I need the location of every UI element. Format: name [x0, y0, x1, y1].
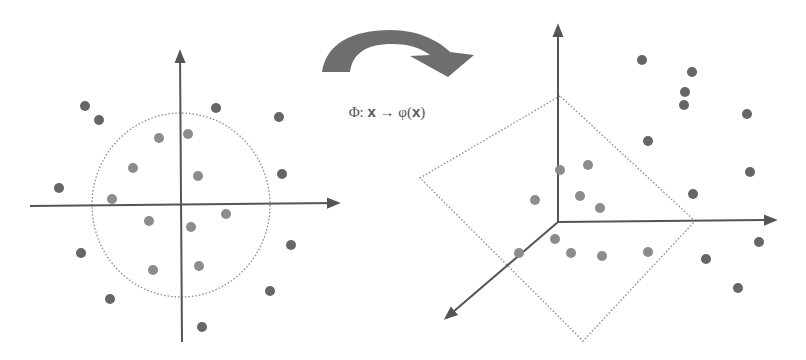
- curved-arrow-icon: [322, 30, 474, 77]
- outer-point: [688, 189, 698, 199]
- inner-point: [194, 261, 204, 271]
- inner-point: [186, 222, 196, 232]
- inner-class-points: [107, 129, 231, 275]
- outer-point: [277, 169, 287, 179]
- outer-point: [754, 237, 764, 247]
- outer-class-points-mapped: [637, 55, 764, 293]
- inner-point: [154, 133, 164, 143]
- y-axis-3d: [446, 222, 558, 318]
- outer-point: [80, 101, 90, 111]
- x-axis-3d: [558, 220, 775, 222]
- maps-to-arrow: →: [376, 104, 399, 120]
- outer-point: [286, 240, 296, 250]
- inner-point: [566, 248, 576, 258]
- inner-point: [530, 195, 540, 205]
- varphi-symbol: φ(: [398, 104, 412, 120]
- phi-symbol: Φ: [349, 104, 360, 120]
- inner-point: [107, 194, 117, 204]
- inner-point: [148, 265, 158, 275]
- mapping-formula: Φ: x → φ(x): [322, 103, 452, 121]
- input-space-plot: [30, 52, 338, 342]
- outer-point: [94, 115, 104, 125]
- outer-point: [54, 183, 64, 193]
- x-axis: [30, 203, 338, 206]
- outer-point: [687, 67, 697, 77]
- feature-space-plot: [420, 26, 775, 341]
- outer-point: [742, 109, 752, 119]
- inner-point: [183, 129, 193, 139]
- inner-class-points-mapped: [514, 160, 653, 261]
- inner-point: [575, 191, 585, 201]
- outer-point: [733, 283, 743, 293]
- outer-point: [274, 112, 284, 122]
- outer-point: [197, 322, 207, 332]
- inner-point: [597, 251, 607, 261]
- outer-point: [643, 136, 653, 146]
- inner-point: [595, 203, 605, 213]
- outer-point: [105, 294, 115, 304]
- inner-point: [144, 216, 154, 226]
- outer-point: [637, 55, 647, 65]
- close-paren: ): [420, 104, 425, 120]
- outer-point: [680, 87, 690, 97]
- inner-point: [550, 234, 560, 244]
- colon: :: [360, 104, 368, 120]
- outer-point: [211, 103, 221, 113]
- outer-point: [679, 100, 689, 110]
- input-vector-x: x: [368, 103, 376, 120]
- inner-point: [555, 165, 565, 175]
- inner-point: [128, 163, 138, 173]
- outer-point: [265, 286, 275, 296]
- diagram-canvas: [0, 0, 806, 360]
- outer-point: [701, 254, 711, 264]
- y-axis: [180, 52, 182, 342]
- outer-point: [76, 248, 86, 258]
- inner-point: [221, 209, 231, 219]
- inner-point: [583, 160, 593, 170]
- inner-point: [514, 248, 524, 258]
- outer-point: [745, 167, 755, 177]
- inner-point: [193, 171, 203, 181]
- inner-point: [643, 247, 653, 257]
